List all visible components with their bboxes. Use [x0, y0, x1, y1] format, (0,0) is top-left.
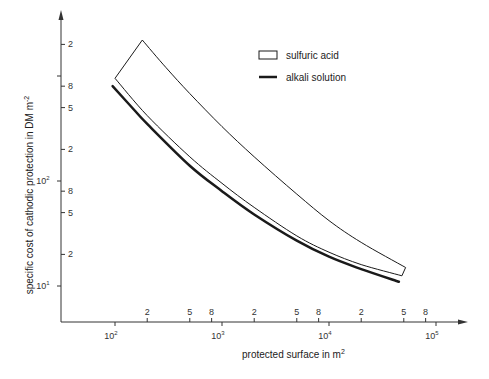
- y-minor-tick-label: 2: [68, 249, 73, 259]
- y-axis-arrow-icon: [59, 10, 64, 20]
- sulfuric-acid-lower-curve: [115, 78, 402, 275]
- y-minor-tick-label: 5: [68, 103, 73, 113]
- x-minor-tick-label: 2: [252, 307, 257, 317]
- sulfuric-acid-upper-curve: [142, 40, 405, 268]
- legend: sulfuric acid alkali solution: [259, 50, 346, 83]
- x-minor-tick-label: 5: [187, 307, 192, 317]
- y-tick-label: 101: [36, 280, 50, 291]
- legend-swatch-sulfuric-acid: [259, 51, 277, 59]
- legend-label-sulfuric-acid: sulfuric acid: [286, 50, 339, 61]
- axes: [59, 10, 469, 325]
- x-minor-tick-label: 8: [423, 307, 428, 317]
- x-minor-tick-label: 5: [401, 307, 406, 317]
- ticks: 1021031041052582582581011022582582: [36, 39, 439, 341]
- x-minor-tick-label: 8: [209, 307, 214, 317]
- x-minor-tick-label: 8: [316, 307, 321, 317]
- x-axis-title: protected surface in m2: [242, 348, 345, 360]
- x-tick-label: 102: [104, 330, 118, 341]
- svg-text:specific cost of cathodic prot: specific cost of cathodic protection in …: [23, 96, 35, 295]
- x-axis-arrow-icon: [458, 320, 468, 325]
- legend-label-alkali-solution: alkali solution: [286, 72, 346, 83]
- y-minor-tick-label: 5: [68, 208, 73, 218]
- alkali-solution-curve: [113, 86, 399, 282]
- x-tick-label: 103: [211, 330, 225, 341]
- svg-text:protected surface in m2: protected surface in m2: [242, 348, 345, 360]
- x-minor-tick-label: 2: [145, 307, 150, 317]
- y-minor-tick-label: 2: [68, 144, 73, 154]
- sulfuric-acid-right-edge: [402, 268, 406, 276]
- chart-canvas: 1021031041052582582581011022582582 sulfu…: [0, 0, 489, 379]
- x-tick-label: 105: [425, 330, 439, 341]
- x-minor-tick-label: 2: [359, 307, 364, 317]
- y-minor-tick-label: 2: [68, 39, 73, 49]
- x-minor-tick-label: 5: [294, 307, 299, 317]
- y-minor-tick-label: 8: [68, 81, 73, 91]
- x-tick-label: 104: [318, 330, 332, 341]
- y-tick-label: 102: [36, 175, 50, 186]
- y-axis-title: specific cost of cathodic protection in …: [23, 96, 35, 295]
- y-minor-tick-label: 8: [68, 186, 73, 196]
- sulfuric-acid-left-edge: [115, 40, 142, 78]
